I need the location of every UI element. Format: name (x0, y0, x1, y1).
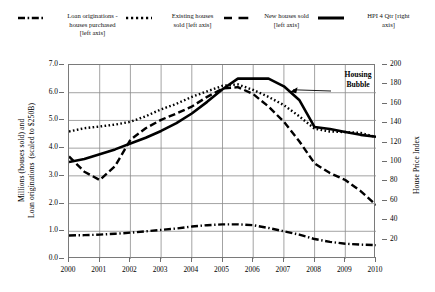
y-right-tick-label: 80 (390, 175, 397, 184)
plot-area (68, 64, 375, 258)
y-left-tick-label: 6.0 (49, 87, 58, 96)
legend-swatch-dotted-icon (126, 15, 152, 21)
x-tick-label: 2003 (145, 265, 175, 274)
y-left-tick-mark (59, 203, 64, 204)
y-right-tick-mark (382, 239, 387, 240)
y-right-tick-mark (382, 142, 387, 143)
x-tick-mark (283, 257, 284, 262)
y-right-tick-label: 60 (390, 195, 397, 204)
y-left-tick-mark (59, 258, 64, 259)
x-tick-mark (252, 257, 253, 262)
legend-swatch-solid-icon (318, 15, 344, 21)
y-left-tick-label: 3.0 (49, 170, 58, 179)
chart-figure: Loan originations - houses purchased [le… (0, 0, 435, 292)
y-left-tick-label: 4.0 (49, 142, 58, 151)
y-left-tick-label: 7.0 (49, 59, 58, 68)
y-left-tick-label: 2.0 (49, 198, 58, 207)
y-right-tick-mark (382, 64, 387, 65)
x-tick-mark (68, 257, 69, 262)
y-left-tick-mark (59, 175, 64, 176)
y-left-tick-mark (59, 230, 64, 231)
x-tick-mark (129, 257, 130, 262)
legend-item-loan-originations: Loan originations - houses purchased [le… (18, 12, 138, 38)
x-tick-label: 2005 (207, 265, 237, 274)
y-axis-left-ticks: 0.01.02.03.04.05.06.07.0 (36, 64, 64, 258)
y-right-tick-label: 160 (390, 98, 401, 107)
chart-legend: Loan originations - houses purchased [le… (0, 0, 435, 56)
x-tick-mark (222, 257, 223, 262)
y-right-tick-mark (382, 103, 387, 104)
x-tick-mark (314, 257, 315, 262)
y-right-tick-mark (382, 161, 387, 162)
y-axis-right-ticks: 20406080100120140160180200 (382, 64, 406, 258)
legend-item-existing-houses-sold: Existing houses sold [left axis] (126, 12, 230, 29)
legend-label-new-houses-sold: New houses sold [left axis] (253, 12, 320, 29)
legend-label-loan-originations: Loan originations - houses purchased [le… (47, 12, 138, 38)
x-axis-ticks: 2000200120022003200420052006200720082009… (68, 262, 375, 276)
x-tick-label: 2000 (53, 265, 83, 274)
x-tick-mark (160, 257, 161, 262)
y-left-tick-label: 0.0 (49, 253, 58, 262)
x-tick-label: 2009 (329, 265, 359, 274)
x-tick-label: 2008 (299, 265, 329, 274)
y-right-tick-label: 200 (390, 59, 401, 68)
x-tick-mark (191, 257, 192, 262)
y-left-tick-mark (59, 92, 64, 93)
x-tick-mark (375, 257, 376, 262)
legend-item-hpi-4-qtr: HPI 4 Qtr [right axis] (318, 12, 430, 29)
y-left-tick-label: 1.0 (49, 225, 58, 234)
y-right-tick-mark (382, 180, 387, 181)
legend-swatch-dashed-icon (224, 15, 250, 21)
y-axis-right-title: House Price Index (412, 110, 424, 220)
legend-label-existing-houses-sold: Existing houses sold [left axis] (155, 12, 230, 29)
legend-item-new-houses-sold: New houses sold [left axis] (224, 12, 320, 29)
y-right-tick-label: 140 (390, 117, 401, 126)
y-right-tick-label: 100 (390, 156, 401, 165)
x-tick-label: 2002 (114, 265, 144, 274)
x-tick-label: 2010 (360, 265, 390, 274)
y-left-tick-mark (59, 147, 64, 148)
y-right-tick-mark (382, 200, 387, 201)
x-tick-label: 2004 (176, 265, 206, 274)
y-right-tick-label: 40 (390, 214, 397, 223)
y-right-tick-label: 20 (390, 234, 397, 243)
y-right-tick-mark (382, 219, 387, 220)
y-left-tick-label: 5.0 (49, 114, 58, 123)
x-tick-label: 2001 (84, 265, 114, 274)
x-tick-mark (99, 257, 100, 262)
plot-annotation-arrow (69, 65, 376, 259)
legend-label-hpi-4-qtr: HPI 4 Qtr [right axis] (347, 12, 430, 29)
legend-swatch-dash-dot-icon (18, 15, 44, 21)
y-left-tick-mark (59, 119, 64, 120)
x-tick-label: 2006 (237, 265, 267, 274)
y-right-tick-label: 120 (390, 137, 401, 146)
x-tick-mark (344, 257, 345, 262)
y-right-tick-label: 180 (390, 78, 401, 87)
y-left-tick-mark (59, 64, 64, 65)
y-right-tick-mark (382, 122, 387, 123)
x-tick-label: 2007 (268, 265, 298, 274)
annotation-housing-bubble: Housing Bubble (330, 70, 386, 89)
